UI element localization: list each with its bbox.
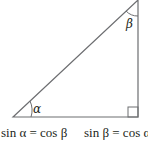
beta-label: β [125,17,133,31]
equation-sin-alpha: sin α = cos β [1,125,67,141]
right-triangle [13,0,138,117]
right-angle-marker [128,107,138,117]
equation-sin-beta: sin β = cos α [84,125,148,141]
alpha-arc [30,101,32,117]
beta-arc [126,11,138,16]
triangle-diagram: α β [0,0,148,144]
alpha-label: α [33,102,41,116]
